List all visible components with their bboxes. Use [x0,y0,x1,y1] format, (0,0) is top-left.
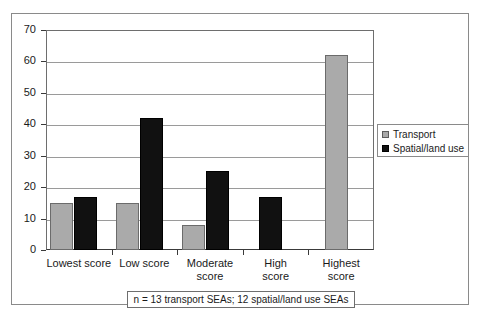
bar-spatial-land-use[interactable] [259,197,282,250]
x-axis-tick [308,250,309,255]
bar-transport[interactable] [325,55,348,250]
x-axis-tick [112,250,113,255]
legend-item-spatial-land-use[interactable]: Spatial/land use [382,142,464,155]
y-axis-tick-label: 20 [18,180,36,192]
footnote-text: n = 13 transport SEAs; 12 spatial/land u… [134,294,349,305]
bar-transport[interactable] [116,203,139,250]
bar-spatial-land-use[interactable] [74,197,97,250]
x-axis-tick [243,250,244,255]
y-axis-tick-label: 50 [18,86,36,98]
y-axis-tick-label: 30 [18,149,36,161]
chart-figure: 010203040506070 Lowest scoreLow scoreMod… [0,0,481,322]
y-axis-tick [41,61,46,62]
legend-swatch-spatial-land-use-icon [382,145,389,152]
bar-transport[interactable] [182,225,205,250]
y-axis-tick [41,124,46,125]
bar-transport[interactable] [50,203,73,250]
y-axis-tick-label: 0 [18,243,36,255]
y-axis-tick-label: 10 [18,212,36,224]
y-axis-tick-label: 60 [18,54,36,66]
y-axis-tick [41,187,46,188]
y-axis-tick [41,30,46,31]
legend-label-transport: Transport [393,129,435,140]
bar-spatial-land-use[interactable] [140,118,163,250]
y-axis-tick-label: 70 [18,23,36,35]
legend-swatch-transport-icon [382,131,389,138]
chart-legend: Transport Spatial/land use [377,124,469,157]
x-axis-tick [177,250,178,255]
x-axis-category-label: Highest score [302,257,380,283]
y-axis-tick [41,93,46,94]
y-axis-tick [41,156,46,157]
y-axis-tick [41,250,46,251]
y-axis-tick-label: 40 [18,117,36,129]
y-axis-tick [41,219,46,220]
footnote-box: n = 13 transport SEAs; 12 spatial/land u… [127,291,355,308]
legend-label-spatial-land-use: Spatial/land use [393,143,464,154]
bar-spatial-land-use[interactable] [206,171,229,250]
legend-item-transport[interactable]: Transport [382,128,435,141]
